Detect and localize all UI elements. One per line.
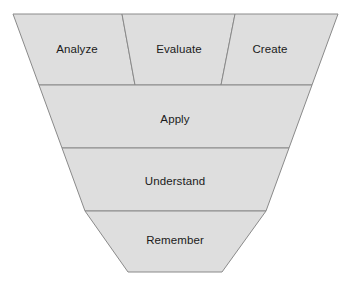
funnel-label-create: Create — [252, 43, 287, 55]
funnel-label-apply: Apply — [160, 113, 189, 125]
funnel-diagram: Analyze Evaluate Create Apply Understand… — [0, 0, 348, 285]
funnel-label-analyze: Analyze — [56, 43, 98, 55]
funnel-label-evaluate: Evaluate — [156, 43, 202, 55]
funnel-diagram-canvas: Analyze Evaluate Create Apply Understand… — [0, 0, 348, 285]
funnel-label-remember: Remember — [146, 234, 204, 246]
funnel-label-understand: Understand — [145, 175, 205, 187]
